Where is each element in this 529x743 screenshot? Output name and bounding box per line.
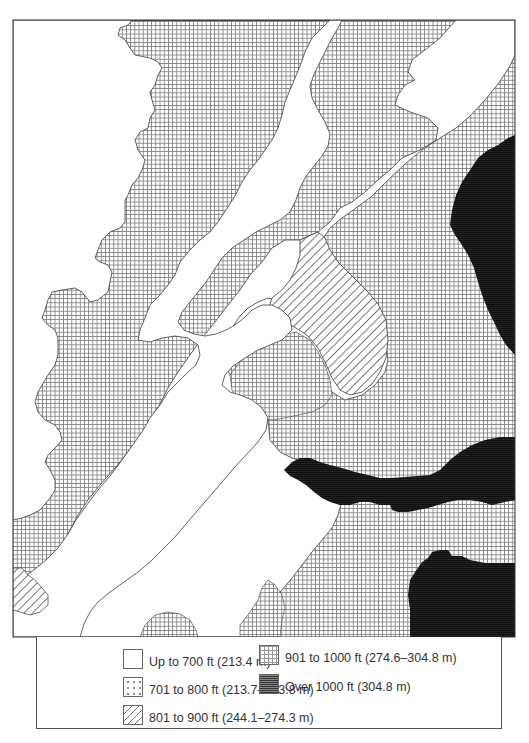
legend-label: 901 to 1000 ft (274.6–304.8 m) (285, 652, 457, 665)
elevation-map (0, 0, 529, 743)
swatch-diagonal-hatch-icon (123, 705, 143, 725)
legend-item-901-1000: 901 to 1000 ft (274.6–304.8 m) (259, 645, 457, 665)
legend-item-up-to-700: Up to 700 ft (213.4 m) (123, 649, 271, 669)
legend-item-over-1000: Over 1000 ft (304.8 m) (259, 674, 411, 694)
legend: Up to 700 ft (213.4 m) 701 to 800 ft (21… (36, 637, 502, 729)
swatch-grid-icon (259, 645, 279, 665)
swatch-dense-horizontal-icon (259, 674, 279, 694)
legend-label: Up to 700 ft (213.4 m) (149, 656, 271, 669)
legend-item-801-900: 801 to 900 ft (244.1–274.3 m) (123, 705, 314, 725)
zone-over-1000-south (408, 550, 515, 637)
swatch-dots-icon (123, 677, 143, 697)
swatch-blank-icon (123, 649, 143, 669)
legend-label: 801 to 900 ft (244.1–274.3 m) (149, 712, 314, 725)
legend-label: Over 1000 ft (304.8 m) (285, 681, 411, 694)
